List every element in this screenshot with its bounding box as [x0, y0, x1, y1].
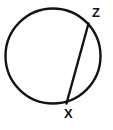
geometry-figure: Z X: [0, 0, 113, 130]
circle-outline: [6, 9, 101, 104]
point-label-x: X: [64, 107, 73, 120]
point-label-z: Z: [92, 6, 100, 19]
